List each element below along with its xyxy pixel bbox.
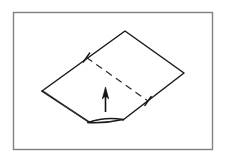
figure-container: Paper folding step diagram lens shaped p… [0, 0, 227, 163]
paper-fold-diagram [0, 0, 227, 163]
